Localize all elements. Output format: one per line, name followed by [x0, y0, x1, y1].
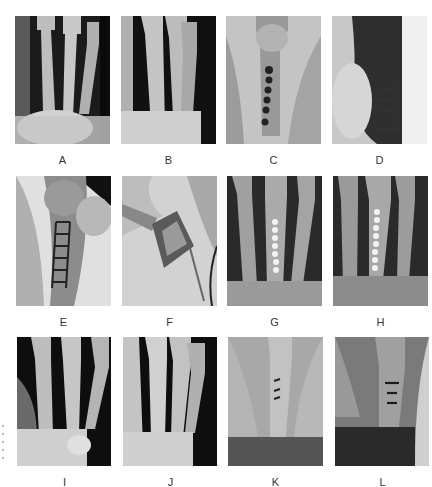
panel-label-b: B — [121, 154, 216, 166]
panel-a-xray — [15, 16, 110, 144]
panel-label-e: E — [16, 316, 111, 328]
panel-e-fluoroscopy — [16, 176, 111, 306]
panel-label-a: A — [15, 154, 110, 166]
panel-j-xray — [123, 337, 217, 466]
panel-label-i: I — [17, 476, 112, 487]
panel-label-h: H — [333, 316, 428, 328]
panel-d-fluoroscopy — [332, 16, 427, 144]
panel-label-f: F — [122, 316, 217, 328]
side-margin-marks — [2, 425, 6, 470]
panel-label-j: J — [123, 476, 218, 487]
panel-label-c: C — [226, 154, 321, 166]
panel-g-xray — [227, 176, 322, 306]
panel-h-xray — [333, 176, 428, 306]
panel-i-xray — [17, 337, 111, 466]
panel-label-d: D — [332, 154, 427, 166]
panel-b-xray — [121, 16, 216, 144]
panel-label-k: K — [228, 476, 323, 487]
panel-k-fluoroscopy — [228, 337, 323, 466]
panel-label-l: L — [335, 476, 430, 487]
panel-c-fluoroscopy — [226, 16, 321, 144]
panel-l-fluoroscopy — [335, 337, 429, 466]
panel-label-g: G — [227, 316, 322, 328]
panel-f-surgical-photo — [122, 176, 217, 306]
